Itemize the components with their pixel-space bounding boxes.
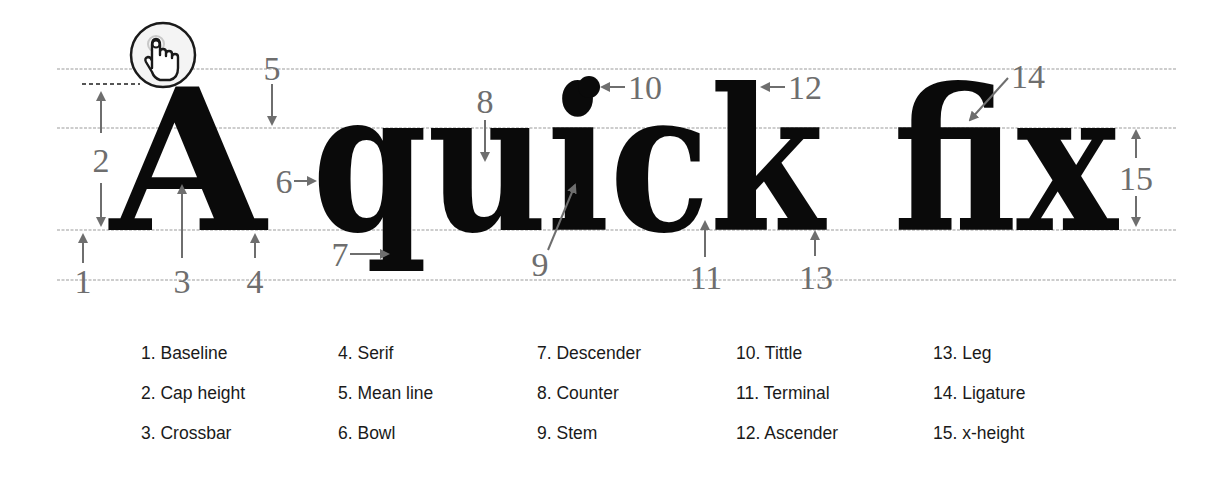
legend-item: 13. Leg (933, 340, 1025, 380)
svg-text:1: 1 (75, 263, 92, 300)
svg-text:3: 3 (174, 263, 191, 300)
legend-column-3: 7. Descender 8. Counter 9. Stem (537, 340, 641, 460)
typography-anatomy-diagram: A quick fix 1 2 3 4 5 6 7 (0, 0, 1228, 300)
legend-item: 12. Ascender (736, 420, 838, 460)
svg-text:5: 5 (264, 50, 281, 87)
legend-item: 5. Mean line (338, 380, 433, 420)
annotation-2-cap-height: 2 (93, 93, 110, 225)
legend: 1. Baseline 2. Cap height 3. Crossbar 4.… (141, 340, 1141, 460)
svg-text:2: 2 (93, 142, 110, 179)
svg-text:6: 6 (276, 163, 293, 200)
legend-item: 8. Counter (537, 380, 641, 420)
legend-item: 6. Bowl (338, 420, 433, 460)
glyph-word-quick: quick (312, 46, 828, 276)
legend-item: 3. Crossbar (141, 420, 245, 460)
pointer-hand-click-icon (131, 23, 195, 87)
annotation-5-mean-line: 5 (264, 50, 281, 124)
legend-column-5: 13. Leg 14. Ligature 15. x-height (933, 340, 1025, 460)
legend-item: 9. Stem (537, 420, 641, 460)
legend-item: 4. Serif (338, 340, 433, 380)
legend-item: 10. Tittle (736, 340, 838, 380)
legend-column-4: 10. Tittle 11. Terminal 12. Ascender (736, 340, 838, 460)
svg-text:9: 9 (532, 246, 549, 283)
legend-item: 11. Terminal (736, 380, 838, 420)
legend-item: 1. Baseline (141, 340, 245, 380)
svg-text:7: 7 (332, 236, 349, 273)
svg-text:11: 11 (690, 259, 723, 296)
glyph-cap-a: A (108, 46, 269, 276)
svg-text:8: 8 (477, 83, 494, 120)
legend-item: 15. x-height (933, 420, 1025, 460)
svg-text:14: 14 (1011, 58, 1045, 95)
annotation-1-baseline: 1 (75, 235, 92, 300)
legend-item: 14. Ligature (933, 380, 1025, 420)
legend-item: 7. Descender (537, 340, 641, 380)
legend-item: 2. Cap height (141, 380, 245, 420)
svg-text:15: 15 (1119, 160, 1153, 197)
svg-text:12: 12 (788, 69, 822, 106)
svg-text:13: 13 (799, 259, 833, 296)
svg-text:10: 10 (628, 69, 662, 106)
annotation-15-x-height: 15 (1119, 131, 1153, 225)
svg-text:4: 4 (247, 263, 264, 300)
legend-column-2: 4. Serif 5. Mean line 6. Bowl (338, 340, 433, 460)
legend-column-1: 1. Baseline 2. Cap height 3. Crossbar (141, 340, 245, 460)
annotation-6-bowl: 6 (276, 163, 316, 200)
